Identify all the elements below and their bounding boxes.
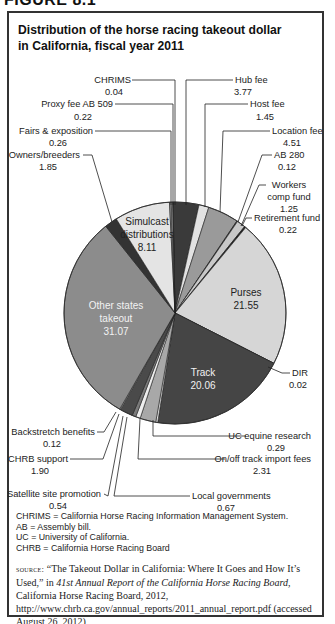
- callout-local: Local governments: [192, 491, 271, 501]
- svg-text:0.04: 0.04: [105, 87, 123, 97]
- callout-chrims: CHRIMS: [94, 75, 131, 85]
- label-other-states: Other states: [89, 300, 143, 311]
- svg-text:0.22: 0.22: [279, 225, 297, 235]
- callout-onoff: On/off track import fees: [215, 454, 312, 464]
- callout-owners: Owners/breeders: [9, 150, 81, 160]
- svg-text:4.51: 4.51: [283, 138, 301, 148]
- source-title: 41st Annual Report of the California Hor…: [56, 577, 288, 588]
- callout-ab280: AB 280: [274, 150, 305, 160]
- svg-text:distributions: distributions: [120, 229, 173, 240]
- svg-text:comp fund: comp fund: [267, 192, 310, 202]
- svg-text:1.85: 1.85: [39, 162, 57, 172]
- note-line: CHRIMS = California Horse Racing Informa…: [16, 511, 316, 522]
- svg-text:21.55: 21.55: [233, 300, 258, 311]
- label-track: Track: [191, 367, 217, 378]
- callout-dir: DIR: [292, 368, 308, 378]
- callout-host: Host fee: [250, 99, 285, 109]
- svg-text:0.26: 0.26: [49, 138, 67, 148]
- pie-slices: [64, 202, 286, 424]
- note-line: AB = Assembly bill.: [16, 522, 316, 533]
- note-line: UC = University of California.: [16, 532, 316, 543]
- svg-text:0.12: 0.12: [278, 162, 296, 172]
- svg-text:3.77: 3.77: [234, 87, 252, 97]
- source-citation: source: “The Takeout Dollar in Californi…: [16, 562, 320, 624]
- svg-text:0.22: 0.22: [74, 112, 92, 122]
- callout-chrb: CHRB support: [8, 454, 68, 464]
- svg-text:1.90: 1.90: [31, 466, 49, 476]
- callout-workers: Workers: [272, 180, 307, 190]
- source-label: source:: [16, 564, 44, 574]
- svg-text:2.31: 2.31: [253, 466, 271, 476]
- label-simulcast: Simulcast: [125, 216, 169, 227]
- callout-hub: Hub fee: [235, 75, 268, 85]
- svg-text:8.11: 8.11: [138, 242, 157, 253]
- callout-backstretch: Backstretch benefits: [11, 427, 95, 437]
- note-line: CHRB = California Horse Racing Board: [16, 543, 316, 554]
- svg-text:1.45: 1.45: [256, 112, 274, 122]
- label-purses: Purses: [230, 287, 261, 298]
- svg-text:20.06: 20.06: [190, 380, 215, 391]
- callout-fairs: Fairs & exposition: [19, 126, 93, 136]
- svg-text:0.12: 0.12: [43, 439, 61, 449]
- svg-text:takeout: takeout: [100, 313, 133, 324]
- svg-text:31.07: 31.07: [103, 326, 128, 337]
- abbreviation-notes: CHRIMS = California Horse Racing Informa…: [16, 511, 316, 553]
- svg-text:0.54: 0.54: [49, 501, 67, 511]
- callout-location: Location fee: [272, 126, 323, 136]
- callout-proxy: Proxy fee AB 509: [41, 99, 113, 109]
- callout-satellite: Satellite site promotion: [7, 489, 101, 499]
- svg-text:0.02: 0.02: [289, 380, 307, 390]
- callout-retirement: Retirement fund: [254, 213, 320, 223]
- callout-uc: UC equine research: [228, 431, 311, 441]
- svg-text:0.29: 0.29: [267, 443, 285, 453]
